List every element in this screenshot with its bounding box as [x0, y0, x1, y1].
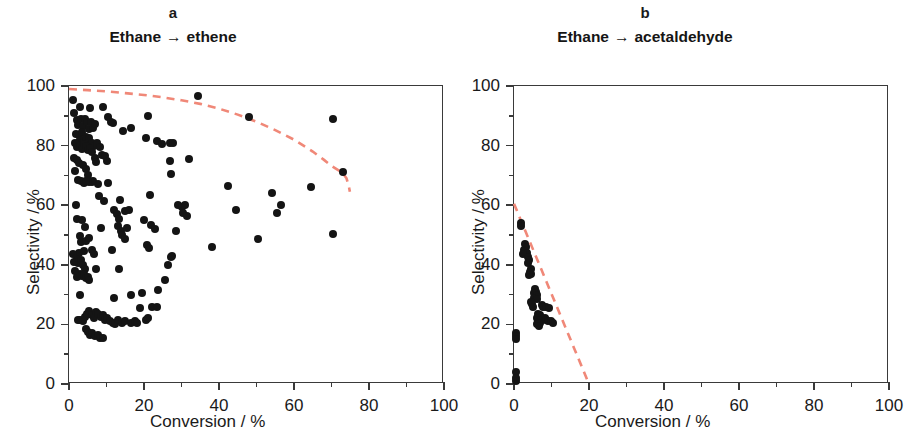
- y-axis-tick-label: 20: [36, 314, 55, 334]
- scatter-point: [142, 134, 150, 142]
- x-axis-tick-label: 60: [730, 396, 749, 416]
- scatter-point: [339, 168, 347, 176]
- x-axis-tick-label: 80: [805, 396, 824, 416]
- scatter-point: [208, 243, 216, 251]
- x-axis-minor-tick: [331, 382, 333, 387]
- scatter-point: [138, 289, 146, 297]
- scatter-point: [110, 294, 118, 302]
- scatter-point: [158, 140, 166, 148]
- scatter-point: [82, 177, 90, 185]
- scatter-point: [85, 234, 93, 242]
- scatter-point: [136, 304, 144, 312]
- x-axis-major-tick: [143, 382, 145, 390]
- scatter-point: [123, 224, 131, 232]
- scatter-point: [268, 189, 276, 197]
- x-axis-major-tick: [813, 382, 815, 390]
- y-axis-major-tick: [506, 324, 514, 326]
- scatter-point: [273, 209, 281, 217]
- scatter-point: [245, 113, 253, 121]
- y-axis-tick-label: 20: [481, 314, 500, 334]
- scatter-point: [194, 92, 202, 100]
- y-axis-major-tick: [61, 324, 69, 326]
- y-axis-tick-label: 0: [46, 374, 55, 394]
- y-axis-major-tick: [506, 145, 514, 147]
- scatter-point: [125, 206, 133, 214]
- x-axis-minor-tick: [626, 382, 628, 387]
- x-axis-major-tick: [663, 382, 665, 390]
- scatter-point: [81, 223, 89, 231]
- panel-b-plot-area: 020406080100020406080100: [514, 86, 887, 382]
- scatter-point: [153, 303, 161, 311]
- y-axis-tick-label: 0: [491, 374, 500, 394]
- panel-b-title: Ethane→acetaldehyde: [417, 28, 873, 46]
- panel-b: b Ethane→acetaldehyde 020406080100020406…: [457, 0, 913, 442]
- x-axis-major-tick: [218, 382, 220, 390]
- y-axis-major-tick: [506, 204, 514, 206]
- x-axis-major-tick: [888, 382, 890, 390]
- scatter-point: [127, 291, 135, 299]
- x-axis-major-tick: [68, 382, 70, 390]
- y-axis-minor-tick: [64, 294, 69, 296]
- y-axis-major-tick: [61, 264, 69, 266]
- y-axis-minor-tick: [64, 175, 69, 177]
- panel-a-letter: a: [0, 4, 401, 21]
- scatter-point: [164, 261, 172, 269]
- x-axis-tick-label: 0: [64, 396, 73, 416]
- x-axis-tick-label: 80: [360, 396, 379, 416]
- scatter-point: [85, 276, 93, 284]
- trendline-dashed: [69, 89, 350, 192]
- y-axis-tick-label: 80: [36, 136, 55, 156]
- panel-a-title: Ethane→ethene: [0, 28, 401, 46]
- y-axis-tick-label: 100: [27, 76, 55, 96]
- panel-a-plot-area: 020406080100020406080100: [69, 86, 442, 382]
- scatter-point: [169, 139, 177, 147]
- x-axis-major-tick: [293, 382, 295, 390]
- scatter-point: [277, 201, 285, 209]
- scatter-point: [161, 276, 169, 284]
- scatter-point: [254, 235, 262, 243]
- scatter-point: [127, 124, 135, 132]
- scatter-point: [144, 314, 152, 322]
- scatter-point: [146, 191, 154, 199]
- scatter-point: [76, 291, 84, 299]
- y-axis-minor-tick: [64, 353, 69, 355]
- scatter-point: [92, 158, 100, 166]
- y-axis-tick-label: 80: [481, 136, 500, 156]
- panel-b-y-axis-title: Selectivity / %: [469, 189, 489, 295]
- y-axis-major-tick: [506, 85, 514, 87]
- scatter-point: [97, 224, 105, 232]
- scatter-point: [71, 167, 79, 175]
- scatter-point: [90, 250, 98, 258]
- x-axis-minor-tick: [851, 382, 853, 387]
- scatter-point: [307, 183, 315, 191]
- scatter-point: [512, 377, 520, 385]
- y-axis-minor-tick: [64, 234, 69, 236]
- scatter-point: [109, 119, 117, 127]
- panel-a-x-axis-title: Conversion / %: [150, 412, 265, 432]
- scatter-point: [232, 206, 240, 214]
- scatter-point: [525, 271, 533, 279]
- y-axis-major-tick: [506, 264, 514, 266]
- scatter-point: [86, 104, 94, 112]
- scatter-point: [545, 304, 553, 312]
- y-axis-minor-tick: [509, 294, 514, 296]
- y-axis-tick-label: 100: [472, 76, 500, 96]
- panel-a-plot-frame: 020406080100020406080100: [68, 85, 443, 383]
- y-axis-major-tick: [61, 85, 69, 87]
- trendline-dashed: [514, 204, 589, 384]
- scatter-point: [329, 230, 337, 238]
- scatter-point: [549, 319, 557, 327]
- x-axis-minor-tick: [776, 382, 778, 387]
- scatter-point: [121, 235, 129, 243]
- x-axis-major-tick: [443, 382, 445, 390]
- scatter-point: [96, 143, 104, 151]
- scatter-point: [72, 201, 80, 209]
- panel-b-letter: b: [417, 4, 873, 21]
- y-axis-minor-tick: [509, 234, 514, 236]
- scatter-point: [512, 335, 520, 343]
- x-axis-tick-label: 0: [509, 396, 518, 416]
- scatter-point: [104, 179, 112, 187]
- scatter-point: [535, 322, 543, 330]
- panel-a-title-product: ethene: [187, 28, 237, 45]
- scatter-point: [166, 157, 174, 165]
